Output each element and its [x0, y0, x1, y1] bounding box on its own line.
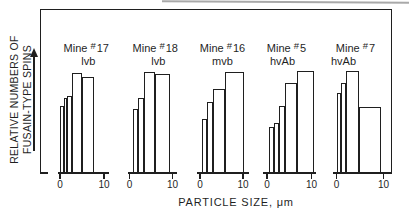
mine-title-mine17: Mine#17 — [55, 42, 118, 55]
mine-hash-superscript: # — [90, 39, 95, 52]
histogram-bar-mine5-3 — [285, 83, 297, 174]
x-axis-line-mine17 — [58, 172, 109, 174]
x-tick-label-0-mine18: 0 — [121, 179, 139, 190]
mine-title-mine16: Mine#16 — [191, 42, 255, 55]
coal-rank-label-mine18: lvb — [128, 55, 190, 68]
y-axis-label-line-1: RELATIVE NUMBERS OF — [8, 33, 21, 167]
histogram-bar-mine17-3 — [72, 73, 82, 174]
x-axis-line-mine18 — [128, 172, 178, 174]
y-axis-arrow-shaft — [33, 56, 35, 151]
coal-rank-label-mine5: hvAb — [250, 55, 315, 68]
x-tick-label-10-mine7: 10 — [375, 179, 393, 190]
y-axis-arrow-up-icon — [30, 48, 38, 57]
mine-word: Mine — [64, 42, 88, 54]
mine-number: 18 — [166, 42, 178, 54]
x-tick-label-10-mine5: 10 — [303, 179, 321, 190]
x-tick-label-0-mine16: 0 — [191, 179, 209, 190]
mine-word: Mine — [267, 42, 291, 54]
x-axis-title: PARTICLE SIZE, μm — [136, 196, 336, 208]
panel-label-mine16: Mine#16mvb — [191, 42, 255, 68]
mine-number: 17 — [97, 42, 109, 54]
figure-stage: RELATIVE NUMBERS OF FUSAIN-TYPE SPINS 01… — [0, 0, 409, 218]
mine-hash-superscript: # — [159, 39, 164, 52]
outer-box-foot-left — [40, 172, 48, 174]
coal-rank-label-mine17: lvb — [57, 55, 120, 68]
mine-word: Mine — [133, 42, 157, 54]
mine-title-mine18: Mine#18 — [125, 42, 187, 55]
mine-hash-superscript: # — [227, 39, 232, 52]
mine-title-mine5: Mine#5 — [254, 42, 319, 55]
histogram-bar-mine18-3 — [155, 74, 170, 174]
x-tick-label-0-mine7: 0 — [328, 179, 346, 190]
mine-hash-superscript: # — [294, 39, 299, 52]
mine-title-mine7: Mine#7 — [322, 42, 390, 55]
scan-artifact-line — [162, 0, 409, 3]
x-tick-label-10-mine16: 10 — [234, 179, 252, 190]
mine-word: Mine — [200, 42, 224, 54]
x-axis-line-mine7 — [333, 172, 389, 174]
x-axis-line-mine5 — [263, 172, 316, 174]
histogram-bar-mine7-2 — [346, 71, 359, 174]
mine-hash-superscript: # — [363, 39, 368, 52]
x-axis-line-mine16 — [197, 172, 249, 174]
x-tick-label-0-mine17: 0 — [51, 179, 69, 190]
mine-number: 7 — [369, 42, 375, 54]
mine-word: Mine — [336, 42, 360, 54]
histogram-bar-mine18-2 — [144, 72, 155, 174]
panel-label-mine17: Mine#17lvb — [55, 42, 118, 68]
mine-number: 5 — [300, 42, 306, 54]
coal-rank-label-mine7: hvAb — [310, 55, 378, 68]
x-tick-label-10-mine18: 10 — [164, 179, 182, 190]
coal-rank-label-mine16: mvb — [191, 55, 255, 68]
histogram-bar-mine5-4 — [297, 71, 314, 174]
mine-number: 16 — [233, 42, 245, 54]
y-axis-label: RELATIVE NUMBERS OF FUSAIN-TYPE SPINS — [8, 33, 33, 167]
x-tick-label-10-mine17: 10 — [95, 179, 113, 190]
histogram-bar-mine17-4 — [82, 77, 95, 174]
histogram-bar-mine16-3 — [225, 72, 244, 174]
histogram-bar-mine16-2 — [213, 89, 225, 174]
x-tick-label-0-mine5: 0 — [258, 179, 276, 190]
histogram-bar-mine7-3 — [359, 107, 380, 174]
panel-label-mine18: Mine#18lvb — [125, 42, 187, 68]
panel-label-mine7: Mine#7hvAb — [322, 42, 390, 68]
